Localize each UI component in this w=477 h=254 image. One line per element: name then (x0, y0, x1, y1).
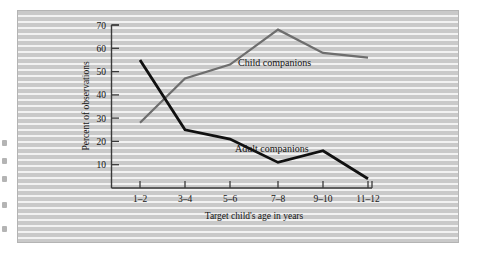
y-tick-label-30: 30 (97, 114, 107, 124)
y-tick-label-group: 70 60 50 40 30 20 10 (97, 21, 107, 171)
y-axis-title: Percent of observations (81, 61, 91, 150)
series-line-adult-companions (140, 60, 368, 179)
x-tick-label-11-12: 11–12 (356, 194, 380, 204)
x-axis-title: Target child's age in years (205, 211, 304, 221)
y-tick-label-20: 20 (97, 137, 107, 147)
series-label-child-companions: Child companions (238, 57, 311, 68)
axis-group (112, 25, 373, 188)
x-tick-label-group: 1–2 3–4 5–6 7–8 9–10 11–12 (133, 194, 380, 204)
x-tick-label-7-8: 7–8 (271, 194, 286, 204)
y-tick-group (112, 25, 120, 165)
series-line-child-companions (140, 30, 368, 123)
y-tick-label-40: 40 (97, 90, 107, 100)
line-chart: 70 60 50 40 30 20 10 Percent of observat… (0, 0, 477, 254)
y-tick-label-60: 60 (97, 44, 107, 54)
x-tick-label-9-10: 9–10 (314, 194, 333, 204)
x-tick-label-1-2: 1–2 (133, 194, 148, 204)
y-tick-label-70: 70 (97, 21, 107, 31)
y-tick-label-10: 10 (97, 160, 107, 170)
x-tick-label-3-4: 3–4 (178, 194, 193, 204)
x-tick-group (140, 181, 368, 188)
x-tick-label-5-6: 5–6 (223, 194, 238, 204)
page-canvas: 70 60 50 40 30 20 10 Percent of observat… (0, 0, 477, 254)
series-label-adult-companions: Adult companions (235, 143, 309, 154)
y-tick-label-50: 50 (97, 67, 107, 77)
